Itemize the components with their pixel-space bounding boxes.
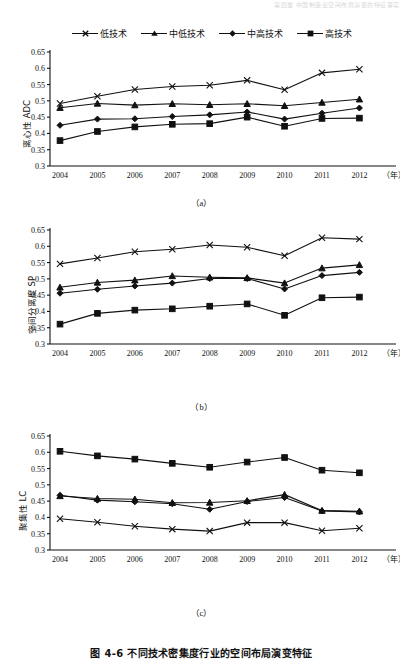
figure-caption: 图 4-6 不同技术密集度行业的空间布局演变特征 — [0, 645, 403, 660]
legend-item-high-tech: 高技术 — [297, 27, 352, 40]
x-tick-label: 2008 — [202, 349, 218, 358]
series-square-marker — [57, 449, 362, 476]
legend-item-low-tech: 低技术 — [72, 27, 127, 40]
diamond-marker-icon — [219, 29, 245, 38]
x-tick-label: 2005 — [89, 171, 105, 180]
square-marker — [169, 461, 175, 467]
square-marker — [207, 303, 213, 309]
legend-label-low-tech: 低技术 — [100, 27, 127, 40]
x-tick-label: 2010 — [277, 555, 293, 564]
y-tick-label: 0.55 — [31, 81, 45, 90]
x-tick-label: 2009 — [239, 555, 255, 564]
square-marker — [57, 321, 63, 327]
series-x-marker — [57, 516, 363, 535]
diamond-marker — [356, 269, 362, 275]
line-chart-c: 0.30.350.40.450.50.550.60.65200420052006… — [26, 428, 400, 580]
diamond-marker — [132, 116, 138, 122]
plot-area-a: 0.30.350.40.450.50.550.60.65200420052006… — [26, 44, 400, 196]
legend-item-medium-low-tech: 中低技术 — [141, 27, 205, 40]
square-marker — [132, 456, 138, 462]
y-tick-label: 0.5 — [35, 275, 45, 284]
square-marker — [244, 114, 250, 120]
diamond-marker — [94, 286, 100, 292]
line-chart-a: 0.30.350.40.450.50.550.60.65200420052006… — [26, 44, 400, 196]
y-tick-label: 0.45 — [31, 497, 45, 506]
y-tick-label: 0.6 — [35, 242, 45, 251]
square-marker — [57, 138, 63, 144]
legend-item-medium-high-tech: 中高技术 — [219, 27, 283, 40]
figure-page: 第四章 中国制造业空间布局演变的特征事实 低技术 中低技术 中高技术 高技术 — [0, 0, 403, 669]
diamond-marker — [94, 116, 100, 122]
diamond-marker — [319, 273, 325, 279]
square-marker — [169, 306, 175, 312]
square-marker — [207, 464, 213, 470]
diamond-marker — [282, 286, 288, 292]
x-marker-icon — [72, 29, 98, 38]
x-tick-label: 2012 — [351, 555, 367, 564]
square-marker — [57, 449, 63, 455]
plot-area-b: 0.30.350.40.450.50.550.60.65200420052006… — [26, 222, 400, 374]
square-marker — [282, 313, 288, 319]
triangle-marker-icon — [141, 29, 167, 38]
y-tick-label: 0.45 — [31, 113, 45, 122]
running-header: 第四章 中国制造业空间布局演变的特征事实 — [150, 0, 400, 10]
square-marker — [319, 116, 325, 122]
y-tick-label: 0.35 — [31, 324, 45, 333]
square-marker — [244, 459, 250, 465]
subcaption-b: （b） — [0, 400, 403, 412]
y-tick-label: 0.65 — [31, 432, 45, 441]
x-tick-label: 2004 — [52, 349, 68, 358]
diamond-marker — [207, 112, 213, 118]
x-tick-label: 2008 — [202, 171, 218, 180]
line-chart-b: 0.30.350.40.450.50.550.60.65200420052006… — [26, 222, 400, 374]
square-marker — [95, 311, 101, 317]
y-tick-label: 0.65 — [31, 226, 45, 235]
chart-panel-b: 空间分离度 SP 0.30.350.40.450.50.550.60.65200… — [0, 222, 403, 387]
diamond-marker — [57, 122, 63, 128]
subcaption-c: （c） — [0, 606, 403, 618]
x-tick-label: 2006 — [127, 555, 143, 564]
chart-legend: 低技术 中低技术 中高技术 高技术 — [72, 27, 352, 40]
square-marker — [319, 467, 325, 473]
subcaption-a: （a） — [0, 196, 403, 208]
y-tick-label: 0.4 — [35, 307, 45, 316]
square-marker — [132, 124, 138, 130]
square-marker — [244, 301, 250, 307]
x-tick-label: 2007 — [164, 349, 180, 358]
series-square-marker — [57, 294, 362, 327]
y-tick-label: 0.3 — [35, 546, 45, 555]
diamond-marker — [282, 116, 288, 122]
chart-panel-a: 离心性 ADC 0.30.350.40.450.50.550.60.652004… — [0, 44, 403, 204]
y-tick-label: 0.4 — [35, 129, 45, 138]
x-tick-label: 2006 — [127, 349, 143, 358]
y-tick-label: 0.45 — [31, 291, 45, 300]
square-marker-icon — [297, 29, 323, 38]
square-marker — [357, 470, 363, 476]
square-marker — [357, 115, 363, 121]
y-tick-label: 0.3 — [35, 162, 45, 171]
x-axis-unit-label: （年） — [382, 554, 400, 564]
x-tick-label: 2011 — [314, 171, 330, 180]
diamond-marker — [169, 113, 175, 119]
x-tick-label: 2011 — [314, 555, 330, 564]
y-tick-label: 0.55 — [31, 465, 45, 474]
y-tick-label: 0.5 — [35, 97, 45, 106]
diamond-marker — [132, 283, 138, 289]
y-tick-label: 0.55 — [31, 259, 45, 268]
x-axis-unit-label: （年） — [382, 170, 400, 180]
x-tick-label: 2007 — [164, 171, 180, 180]
diamond-marker — [356, 105, 362, 111]
x-axis-unit-label: （年） — [382, 348, 400, 358]
x-tick-label: 2005 — [89, 349, 105, 358]
y-tick-label: 0.4 — [35, 513, 45, 522]
y-tick-label: 0.6 — [35, 64, 45, 73]
x-tick-label: 2012 — [351, 349, 367, 358]
x-tick-label: 2009 — [239, 171, 255, 180]
y-tick-label: 0.65 — [31, 48, 45, 57]
x-tick-label: 2009 — [239, 349, 255, 358]
square-marker — [169, 122, 175, 128]
legend-label-high-tech: 高技术 — [325, 27, 352, 40]
y-tick-label: 0.35 — [31, 146, 45, 155]
series-x-marker — [57, 235, 363, 267]
plot-area-c: 0.30.350.40.450.50.550.60.65200420052006… — [26, 428, 400, 580]
